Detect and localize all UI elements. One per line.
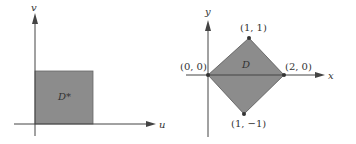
right-panel: x y D (0, 0) (1, 1) (2, 0) (1, −1): [180, 6, 334, 137]
y-axis-label: y: [204, 6, 211, 17]
vertex-dot: [242, 112, 246, 116]
diagram-canvas: u v D* x y D (0, 0) (1, 1) (2, 0) (1, −1…: [0, 0, 356, 144]
x-axis-arrow-icon: [315, 72, 325, 78]
vertex-dot: [206, 73, 210, 77]
vertex-label-right: (2, 0): [285, 61, 312, 72]
vertex-dot: [282, 73, 286, 77]
v-axis-label: v: [31, 2, 37, 13]
vertex-label-top: (1, 1): [240, 22, 267, 33]
v-axis-arrow-icon: [32, 13, 38, 24]
vertex-label-origin: (0, 0): [180, 61, 207, 72]
left-panel: u v D*: [14, 2, 165, 136]
u-axis-label: u: [159, 119, 165, 130]
region-d: [208, 38, 284, 114]
region-d-label: D: [241, 59, 250, 70]
region-d-star-label: D*: [57, 91, 71, 102]
u-axis-arrow-icon: [146, 121, 156, 127]
vertex-label-bottom: (1, −1): [231, 118, 266, 129]
x-axis-label: x: [328, 70, 334, 81]
y-axis-arrow-icon: [205, 20, 211, 31]
vertex-dot: [247, 36, 251, 40]
